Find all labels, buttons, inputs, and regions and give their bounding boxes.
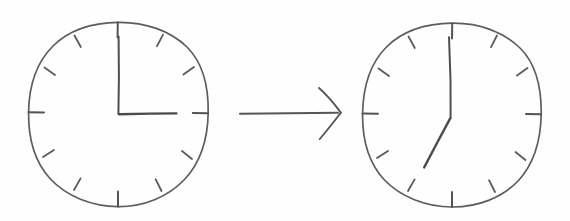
clock-face-after <box>363 23 542 207</box>
clock-rim-after <box>363 23 542 207</box>
clock-sketch-illustration <box>0 0 570 221</box>
minute-hand-after <box>449 37 451 118</box>
clock-tick-5-after <box>489 180 495 192</box>
clock-tick-10-after <box>379 69 390 77</box>
clock-tick-1-after <box>491 36 497 48</box>
clock-tick-4-after <box>516 152 526 160</box>
clock-tick-11-before <box>75 36 81 48</box>
sketch-canvas <box>0 0 570 221</box>
arrow-barb-upper <box>319 88 341 113</box>
hour-hand-after <box>424 118 450 167</box>
clock-face-before <box>29 22 209 206</box>
clock-tick-2-before <box>183 67 194 75</box>
transition-arrow <box>240 88 341 139</box>
arrow-shaft <box>240 113 338 114</box>
hour-hand-before <box>119 113 176 114</box>
clock-tick-11-after <box>409 37 415 49</box>
arrow-barb-lower <box>320 113 341 139</box>
minute-hand-before <box>118 37 119 114</box>
clock-tick-5-before <box>156 179 162 191</box>
clock-tick-7-after <box>408 179 415 191</box>
clock-tick-7-before <box>74 178 81 190</box>
clock-tick-2-after <box>517 68 528 76</box>
clock-tick-10-before <box>45 68 56 76</box>
clock-tick-1-before <box>157 35 163 47</box>
clock-tick-8-after <box>377 151 388 158</box>
clock-tick-8-before <box>43 150 54 157</box>
clock-tick-4-before <box>182 151 192 159</box>
